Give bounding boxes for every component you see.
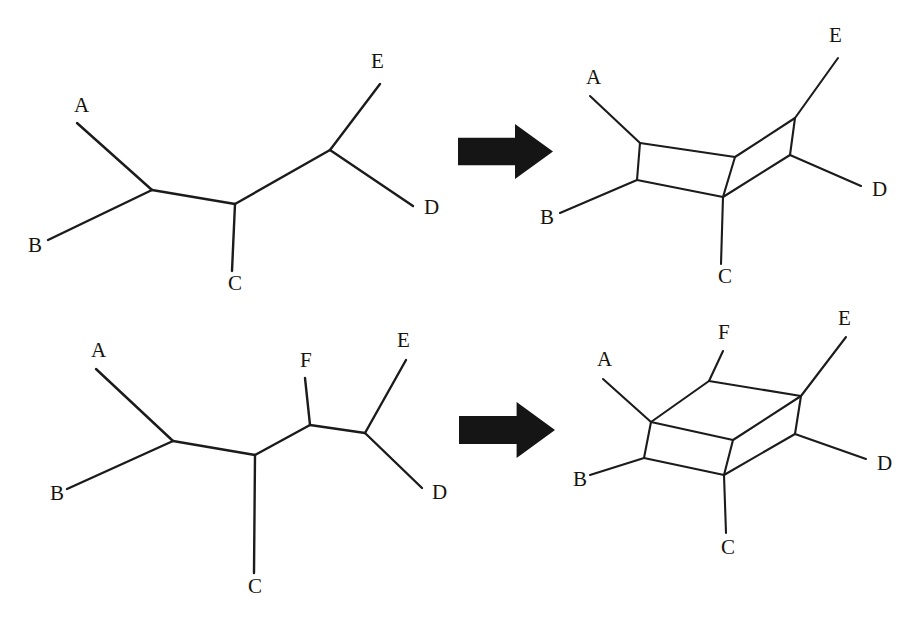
taxon-label-f: F xyxy=(718,320,730,344)
graph-edge-n1-n2 xyxy=(173,441,255,455)
taxon-label-c: C xyxy=(248,574,262,598)
graph-edge-br_t-r_mid xyxy=(795,396,801,434)
graph-edge-B-fl_b xyxy=(590,458,644,475)
panel-top-right-network: ABCDE xyxy=(540,23,887,288)
graph-edge-C-n2 xyxy=(254,455,255,573)
graph-edge-fl_t-bl_t xyxy=(651,381,709,422)
graph-edge-n3-E xyxy=(330,84,380,150)
graph-edge-n3-n4 xyxy=(310,425,365,433)
graph-edge-B-q_bl xyxy=(560,180,637,213)
taxon-label-b: B xyxy=(50,481,64,505)
graph-edge-n2-n3 xyxy=(235,150,330,204)
taxon-label-c: C xyxy=(718,264,732,288)
graph-edge-n4-E xyxy=(365,360,406,433)
graph-edge-A-q_tl xyxy=(590,96,640,143)
graph-edge-fr_t-br_t xyxy=(733,396,801,440)
taxon-label-d: D xyxy=(872,177,887,201)
graph-edge-q_br-C xyxy=(721,197,723,264)
graph-edge-q_tr-r_top xyxy=(735,118,795,157)
graph-edge-q_tl-q_tr xyxy=(640,143,735,157)
panel-bottom-left-tree: ABCDEF xyxy=(50,328,447,598)
graph-edge-n2-n3 xyxy=(255,425,310,455)
graph-edge-br_t-E xyxy=(801,337,846,396)
graph-edge-r_right-D xyxy=(790,155,861,186)
graph-edge-A-n1 xyxy=(77,123,152,190)
taxon-label-d: D xyxy=(432,480,447,504)
taxon-label-c: C xyxy=(721,535,735,559)
taxon-label-c: C xyxy=(228,271,242,295)
graph-edge-A-fl_t xyxy=(603,379,651,422)
taxon-label-b: B xyxy=(28,233,42,257)
taxon-label-a: A xyxy=(91,338,107,362)
graph-edge-fr_b-C xyxy=(724,475,726,533)
graph-edge-bl_t-F xyxy=(709,351,723,381)
taxon-label-b: B xyxy=(573,467,587,491)
taxon-label-a: A xyxy=(597,347,613,371)
graph-edge-n3-F xyxy=(305,378,310,425)
taxon-label-d: D xyxy=(424,195,439,219)
panel-top-left-tree: ABCDE xyxy=(28,49,439,295)
taxon-label-e: E xyxy=(829,23,842,47)
taxon-label-e: E xyxy=(838,306,851,330)
graph-edge-n1-n2 xyxy=(152,190,235,204)
graph-edge-r_mid-D xyxy=(795,434,866,459)
arrow-layer xyxy=(458,124,555,458)
graph-edge-r_top-E xyxy=(795,58,838,118)
graph-edge-q_bl-q_br xyxy=(637,180,723,197)
graph-edge-bl_t-br_t xyxy=(709,381,801,396)
taxon-label-e: E xyxy=(371,49,384,73)
arrow-right-icon xyxy=(458,124,553,179)
taxon-label-a: A xyxy=(586,65,602,89)
graph-edge-fl_b-fr_b xyxy=(644,458,724,475)
graph-edge-n3-D xyxy=(330,150,413,206)
graph-edge-r_top-r_right xyxy=(790,118,795,155)
taxon-label-f: F xyxy=(300,348,312,372)
taxon-label-e: E xyxy=(397,328,410,352)
graph-edge-fl_t-fl_b xyxy=(644,422,651,458)
graph-edge-B-n1 xyxy=(48,190,152,240)
figure-root: ABCDE ABCDE ABCDEF ABCDEF xyxy=(0,0,922,625)
graph-edge-fl_t-fr_t xyxy=(651,422,733,440)
graph-edge-A-n1 xyxy=(96,369,173,441)
graph-edge-n4-D xyxy=(365,433,422,488)
taxon-label-b: B xyxy=(540,205,554,229)
taxon-label-d: D xyxy=(877,451,892,475)
taxon-label-a: A xyxy=(74,93,90,117)
figure-canvas: ABCDE ABCDE ABCDEF ABCDEF xyxy=(0,0,922,625)
arrow-right-icon xyxy=(459,402,555,458)
graph-edge-B-n1 xyxy=(67,441,173,489)
graph-edge-q_tl-q_bl xyxy=(637,143,640,180)
graph-edge-C-n2 xyxy=(232,204,235,271)
panel-bottom-right-network: ABCDEF xyxy=(573,306,892,559)
